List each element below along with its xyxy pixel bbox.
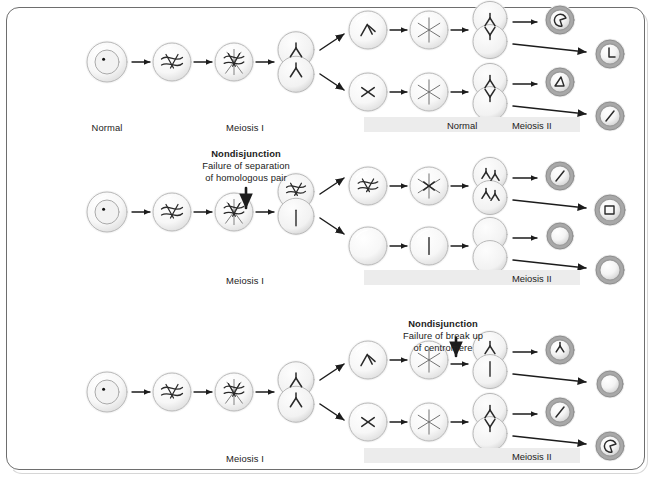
row3-nondisjunction-line1: Failure of break up	[403, 330, 483, 341]
row3-bar-label-meiosis2: Meiosis II	[512, 451, 552, 462]
row1-label-normal: Normal	[92, 122, 123, 133]
row3-nondisjunction-line2: of centromere	[413, 342, 472, 353]
row3-label-meiosis1: Meiosis I	[226, 453, 264, 464]
row2-nondisjunction-line1: Failure of separation	[202, 160, 290, 171]
row2-label-meiosis1: Meiosis I	[226, 275, 264, 286]
row1-bar-label-meiosis2: Meiosis II	[512, 120, 552, 131]
diagram-stage: Normal Meiosis I Normal Meiosis II Nondi…	[0, 0, 659, 484]
row2-nondisjunction-title: Nondisjunction	[211, 148, 281, 159]
row2-nondisjunction-line2: of homologous pair	[205, 172, 287, 183]
row1-bar-label-normal: Normal	[447, 120, 477, 131]
row3-nondisjunction-title: Nondisjunction	[408, 318, 478, 329]
row1-label-meiosis1: Meiosis I	[226, 122, 264, 133]
diagram-frame	[6, 7, 645, 470]
row2-bar-label-meiosis2: Meiosis II	[512, 273, 552, 284]
